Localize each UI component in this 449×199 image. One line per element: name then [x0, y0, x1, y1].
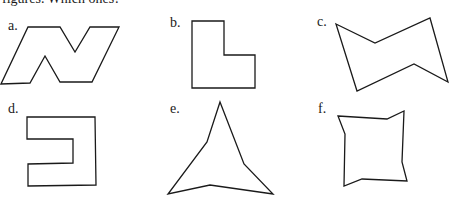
figure-c-polygon	[336, 18, 448, 91]
figure-f-polygon	[338, 111, 407, 186]
figure-d-polygon	[27, 117, 96, 186]
figure-b-polygon	[192, 21, 255, 88]
figures-canvas	[0, 0, 449, 199]
figure-e-polygon	[168, 102, 273, 194]
figure-a-polygon	[1, 27, 119, 84]
